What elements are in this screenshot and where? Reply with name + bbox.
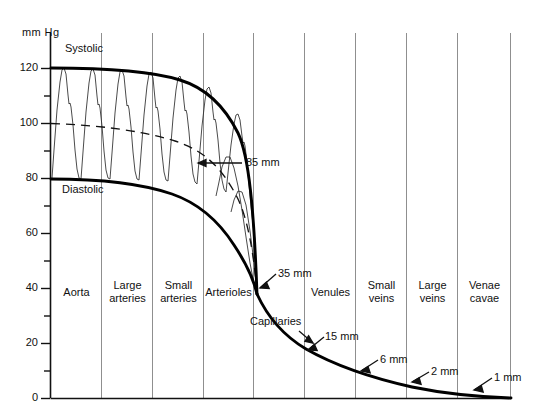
column-label-venae-cavae: Venae cavae: [458, 279, 511, 305]
column-label-small-veins: Small veins: [356, 279, 407, 305]
column-label-large-arteries-line1: Large: [102, 279, 153, 292]
capillaries-curve-label: Capillaries: [250, 315, 301, 327]
venous-pressure-curve: [257, 294, 511, 398]
y-tick-label-100: 100: [8, 116, 38, 128]
column-label-venules: Venules: [305, 286, 356, 299]
annotation-6mm: 6 mm: [380, 353, 408, 365]
y-axis-ticks: [41, 69, 50, 399]
column-label-venules-line1: Venules: [305, 286, 356, 299]
mean-pressure-curve: [51, 124, 257, 294]
leader-2mm: [412, 372, 429, 384]
column-label-small-veins-line1: Small: [356, 279, 407, 292]
column-label-large-veins-line2: veins: [407, 292, 458, 305]
y-tick-label-80: 80: [8, 171, 38, 183]
blood-pressure-diagram: mm Hg 120 100 80 60 40 20 0 Systolic Dia…: [0, 0, 533, 412]
column-label-large-veins-line1: Large: [407, 279, 458, 292]
y-tick-label-60: 60: [8, 226, 38, 238]
column-label-large-arteries-line2: arteries: [102, 292, 153, 305]
column-label-aorta: Aorta: [51, 286, 102, 299]
annotation-leaders: [198, 159, 492, 392]
column-label-venae-cavae-line1: Venae: [458, 279, 511, 292]
y-tick-label-20: 20: [8, 336, 38, 348]
y-tick-label-120: 120: [8, 61, 38, 73]
column-label-small-arteries-line2: arteries: [153, 292, 204, 305]
column-label-venae-cavae-line2: cavae: [458, 292, 511, 305]
column-label-small-arteries-line1: Small: [153, 279, 204, 292]
annotation-15mm: 15 mm: [325, 330, 359, 342]
annotation-85mm: 85 mm: [246, 156, 280, 168]
systolic-curve-label: Systolic: [65, 42, 103, 54]
pulse-wave-2: [81, 69, 110, 179]
pulse-wave-6: [197, 87, 226, 192]
pulse-wave-3: [110, 70, 139, 180]
column-label-small-veins-line2: veins: [356, 292, 407, 305]
leader-35mm: [260, 274, 276, 289]
pulse-wave-4: [139, 72, 168, 181]
annotation-35mm: 35 mm: [278, 267, 312, 279]
column-label-arterioles-line1: Arterioles: [203, 286, 254, 299]
leader-1mm: [474, 378, 492, 392]
column-label-large-veins: Large veins: [407, 279, 458, 305]
column-label-aorta-line1: Aorta: [51, 286, 102, 299]
vertical-gridlines: [102, 33, 511, 398]
diastolic-curve: [51, 179, 257, 294]
diagram-canvas: [0, 0, 533, 412]
annotation-2mm: 2 mm: [431, 365, 459, 377]
column-label-large-arteries: Large arteries: [102, 279, 153, 305]
column-label-arterioles: Arterioles: [203, 286, 254, 299]
y-tick-label-40: 40: [8, 281, 38, 293]
y-axis-unit-label: mm Hg: [22, 26, 59, 38]
image-frame: [1, 1, 533, 412]
diastolic-curve-label: Diastolic: [62, 183, 104, 195]
annotation-1mm: 1 mm: [494, 371, 522, 383]
leader-capillaries: [299, 331, 313, 343]
pulse-wave-7: [226, 114, 255, 240]
y-tick-label-0: 0: [8, 391, 38, 403]
pulse-wave-5: [168, 76, 197, 184]
leader-6mm: [361, 360, 378, 373]
column-label-small-arteries: Small arteries: [153, 279, 204, 305]
